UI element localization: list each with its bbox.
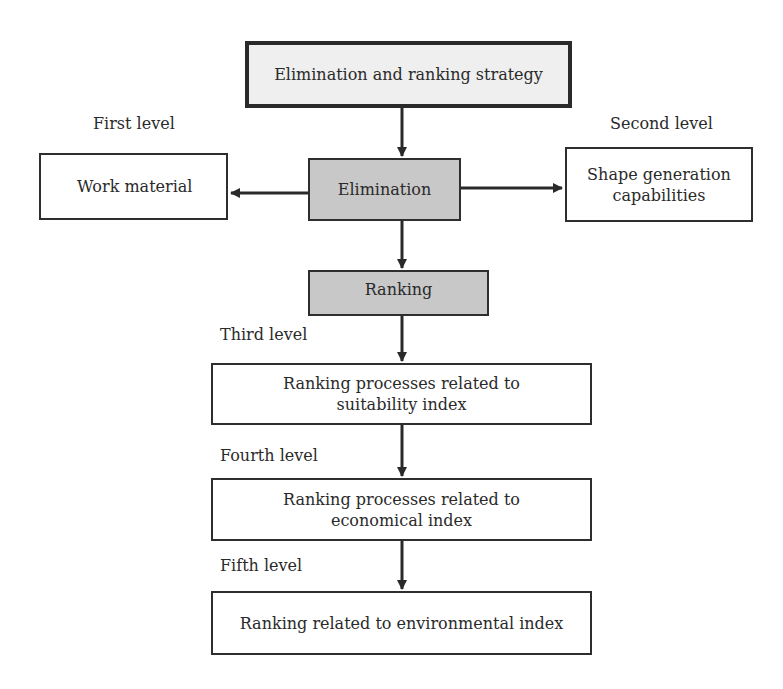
- first-level-label: First level: [93, 114, 175, 133]
- second-level-label: Second level: [610, 114, 713, 133]
- third-level-label: Third level: [220, 325, 307, 344]
- work-material-box: Work material: [39, 153, 228, 220]
- environmental-box: Ranking related to environmental index: [211, 591, 592, 655]
- fourth-level-label: Fourth level: [220, 446, 318, 465]
- shape-generation-label: Shape generation capabilities: [587, 164, 731, 206]
- strategy-label: Elimination and ranking strategy: [274, 64, 543, 85]
- fifth-level-label: Fifth level: [220, 556, 302, 575]
- ranking-label: Ranking: [365, 279, 433, 300]
- shape-generation-box: Shape generation capabilities: [565, 147, 753, 222]
- suitability-label: Ranking processes related to suitability…: [243, 373, 560, 415]
- ranking-box: Ranking: [308, 270, 489, 316]
- elimination-label: Elimination: [338, 179, 432, 200]
- economical-label: Ranking processes related to economical …: [235, 489, 568, 531]
- suitability-box: Ranking processes related to suitability…: [211, 363, 592, 425]
- strategy-box: Elimination and ranking strategy: [245, 41, 572, 108]
- work-material-label: Work material: [77, 176, 192, 197]
- economical-box: Ranking processes related to economical …: [211, 478, 592, 541]
- environmental-label: Ranking related to environmental index: [240, 613, 564, 634]
- elimination-box: Elimination: [308, 158, 461, 221]
